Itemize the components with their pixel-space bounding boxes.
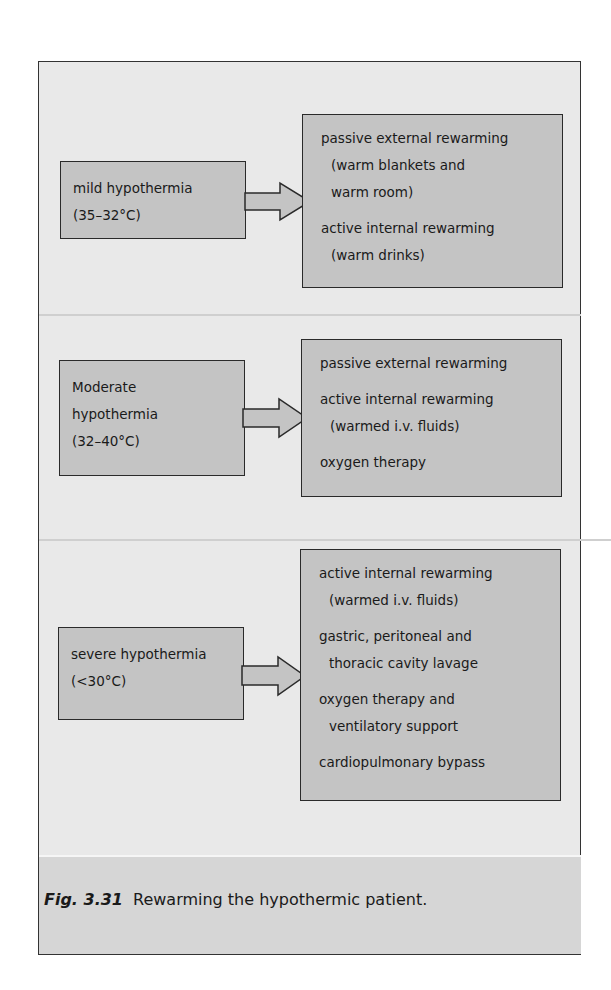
treatment-line: active internal rewarming bbox=[319, 560, 560, 587]
condition-temperature: (35–32°C) bbox=[73, 202, 245, 229]
condition-label: severe hypothermia bbox=[71, 641, 243, 668]
condition-temperature: (<30°C) bbox=[71, 668, 243, 695]
treatment-line: (warmed i.v. fluids) bbox=[319, 587, 560, 614]
figure-number: Fig. 3.31 bbox=[44, 890, 123, 909]
treatment-line: ventilatory support bbox=[319, 713, 560, 740]
treatment-line: thoracic cavity lavage bbox=[319, 650, 560, 677]
treatment-line: passive external rewarming bbox=[320, 350, 561, 377]
section-divider bbox=[39, 314, 581, 316]
section-divider bbox=[39, 539, 611, 541]
treatment-line: gastric, peritoneal and bbox=[319, 623, 560, 650]
treatment-line: active internal rewarming bbox=[321, 215, 562, 242]
figure-caption: Fig. 3.31Rewarming the hypothermic patie… bbox=[44, 890, 427, 909]
treatment-line: passive external rewarming bbox=[321, 125, 562, 152]
condition-label: Moderate bbox=[72, 374, 244, 401]
treatment-box-severe: active internal rewarming (warmed i.v. f… bbox=[300, 549, 561, 801]
treatment-line: active internal rewarming bbox=[320, 386, 561, 413]
treatment-line: (warmed i.v. fluids) bbox=[320, 413, 561, 440]
caption-text: Rewarming the hypothermic patient. bbox=[133, 890, 427, 909]
condition-temperature: (32–40°C) bbox=[72, 428, 244, 455]
condition-label: hypothermia bbox=[72, 401, 244, 428]
treatment-line: warm room) bbox=[321, 179, 562, 206]
treatment-line: (warm drinks) bbox=[321, 242, 562, 269]
condition-box-severe: severe hypothermia (<30°C) bbox=[58, 627, 244, 720]
treatment-box-mild: passive external rewarming (warm blanket… bbox=[302, 114, 563, 288]
treatment-line: oxygen therapy and bbox=[319, 686, 560, 713]
treatment-box-moderate: passive external rewarming active intern… bbox=[301, 339, 562, 497]
treatment-line: oxygen therapy bbox=[320, 449, 561, 476]
treatment-line: cardiopulmonary bypass bbox=[319, 749, 560, 776]
treatment-line: (warm blankets and bbox=[321, 152, 562, 179]
condition-box-moderate: Moderate hypothermia (32–40°C) bbox=[59, 360, 245, 476]
condition-label: mild hypothermia bbox=[73, 175, 245, 202]
condition-box-mild: mild hypothermia (35–32°C) bbox=[60, 161, 246, 239]
